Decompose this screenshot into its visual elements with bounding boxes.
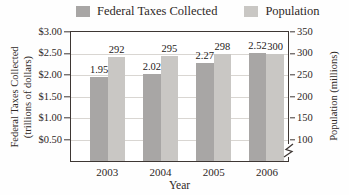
legend-item-population: Population (244, 3, 319, 19)
left-axis-title-line2: (trillions of dollars) (21, 46, 34, 147)
right-axis-title: Population (millions) (327, 51, 340, 141)
left-axis-tick-label: $2.50 (38, 47, 62, 59)
bar-value-label-population: 298 (214, 41, 230, 52)
right-axis-tick (290, 117, 296, 118)
right-axis-tick-label: 250 (297, 69, 313, 81)
x-axis-title: Year (70, 179, 289, 191)
bar-taxes-2005 (196, 63, 214, 161)
right-axis-tick (290, 74, 296, 75)
right-axis-tick-label: 350 (297, 26, 313, 38)
bar-taxes-2003 (90, 77, 108, 161)
left-axis-tick (64, 74, 70, 75)
population-legend-swatch-icon (244, 6, 258, 17)
bar-taxes-2006 (249, 53, 267, 161)
legend-item-taxes: Federal Taxes Collected (76, 3, 217, 19)
bar-taxes-2004 (143, 74, 161, 161)
left-axis-tick (64, 96, 70, 97)
x-tick-label-2006: 2006 (256, 166, 278, 178)
plot-area: $3.00350$2.50300$2.00250$1.50200$1.00150… (70, 31, 289, 162)
right-axis-tick (290, 53, 296, 54)
bar-population-2004 (161, 56, 179, 161)
left-axis-tick-label: $0.50 (38, 134, 62, 146)
right-axis-tick-label: 150 (297, 112, 313, 124)
bar-value-label-taxes: 2.02 (143, 61, 161, 72)
left-axis-tick-label: $2.00 (38, 69, 62, 81)
bar-population-2003 (108, 57, 126, 161)
taxes-legend-swatch-icon (76, 6, 90, 17)
left-axis-tick (64, 139, 70, 140)
x-axis-tick-labels: 2003200420052006 (70, 166, 289, 180)
left-axis-tick-label: $1.00 (38, 112, 62, 124)
left-axis-tick (64, 53, 70, 54)
right-axis-tick (290, 96, 296, 97)
bar-population-2005 (214, 54, 232, 161)
right-axis-tick (290, 31, 296, 32)
x-tick-label-2004: 2004 (150, 166, 172, 178)
left-axis-tick-label: $3.00 (38, 26, 62, 38)
bar-value-label-population: 295 (162, 43, 178, 54)
legend-label-population: Population (265, 3, 319, 19)
legend-label-taxes: Federal Taxes Collected (97, 3, 217, 19)
bar-value-label-taxes: 2.27 (196, 50, 214, 61)
bar-value-label-population: 300 (267, 41, 283, 52)
left-axis-title-line1: Federal Taxes Collected (8, 46, 21, 147)
left-axis-tick-label: $1.50 (38, 91, 62, 103)
right-axis-tick-label: 200 (297, 91, 313, 103)
right-axis-tick (290, 139, 296, 140)
x-tick-label-2003: 2003 (96, 166, 118, 178)
bar-chart-figure: Federal Taxes Collected Population Feder… (0, 0, 349, 195)
left-axis-tick (64, 31, 70, 32)
left-axis-tick (64, 117, 70, 118)
right-axis-tick-label: 300 (297, 47, 313, 59)
bar-value-label-taxes: 2.52 (248, 40, 266, 51)
bar-value-label-taxes: 1.95 (90, 64, 108, 75)
bar-value-label-population: 292 (109, 44, 125, 55)
chart-legend: Federal Taxes Collected Population (76, 3, 320, 19)
axis-break-icon (281, 142, 296, 159)
x-tick-label-2005: 2005 (203, 166, 225, 178)
right-axis-tick-label: 100 (297, 134, 313, 146)
left-axis-title: Federal Taxes Collected (trillions of do… (8, 46, 34, 147)
